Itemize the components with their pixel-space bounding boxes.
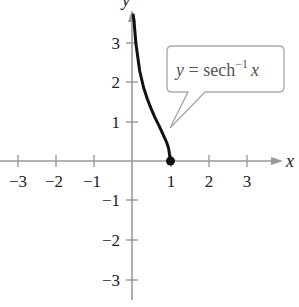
chart: −3 −2 −1 1 2 3 3 2 1 −1 −2 −3 x y y = se… [0,0,299,307]
x-axis-arrow-icon [271,157,283,165]
x-tick-label: 1 [167,172,176,191]
y-tick-label: 2 [112,73,121,92]
y-tick-label: 3 [112,34,121,53]
x-tick-label: −1 [83,172,101,191]
x-tick-label: −3 [9,172,27,191]
y-tick-label: −1 [102,191,120,210]
endpoint-dot [166,157,175,166]
sech-inverse-curve [133,15,170,161]
callout: y = sech−1x [167,46,284,128]
x-tick-label: 2 [205,172,214,191]
y-tick-label: −3 [102,271,120,290]
y-tick-label: 1 [112,113,121,132]
x-tick-label: 3 [243,172,252,191]
x-tick-label: −2 [45,172,63,191]
x-axis-label: x [285,151,294,171]
y-tick-label: −2 [102,231,120,250]
y-axis-label: y [120,0,130,10]
